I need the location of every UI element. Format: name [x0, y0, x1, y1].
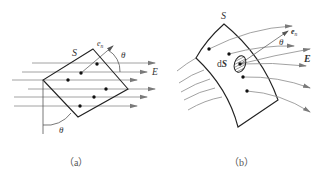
point-dot	[66, 78, 69, 81]
normal-label-b: en	[291, 27, 298, 37]
surface-label-a: S	[72, 47, 77, 58]
field-line	[240, 63, 306, 66]
element-label-ds: dS	[217, 59, 227, 69]
caption-a: （a）	[64, 157, 88, 168]
field-line	[188, 97, 222, 110]
normal-label-a: en	[97, 39, 104, 49]
caption-b: （b）	[229, 157, 254, 168]
figure-a: S en θ E θ （a）	[12, 39, 158, 168]
field-label-b: E	[303, 53, 311, 64]
field-line	[243, 77, 310, 88]
surface-label-b: S	[221, 10, 226, 21]
angle-label-top-a: θ	[121, 50, 126, 60]
point-dot	[207, 47, 210, 50]
field-line	[229, 46, 294, 54]
flux-diagram: S en θ E θ （a）	[0, 0, 327, 179]
angle-label-b: θ	[279, 37, 284, 47]
field-lines-a	[12, 63, 155, 106]
point-dot	[92, 95, 95, 98]
point-dot	[241, 75, 244, 78]
angle-arc-bottom	[43, 113, 71, 125]
field-label-a: E	[151, 67, 158, 77]
point-dot	[227, 52, 230, 55]
angle-label-bottom-a: θ	[59, 125, 64, 135]
point-dot	[104, 87, 107, 90]
point-dot	[238, 62, 241, 65]
plane-surface-s	[43, 49, 128, 117]
field-line	[177, 58, 196, 71]
normal-vector-en-b	[240, 31, 288, 64]
field-lines-b-outgoing	[209, 26, 310, 112]
field-lines-b-incoming	[177, 58, 222, 110]
curved-surface-s	[196, 24, 278, 127]
figure-b: S en θ E dS （b）	[177, 10, 311, 168]
field-line	[247, 91, 310, 112]
point-dot	[95, 62, 98, 65]
point-dot	[245, 89, 248, 92]
point-dot	[79, 71, 82, 74]
field-points-a	[66, 62, 107, 107]
point-dot	[78, 104, 81, 107]
field-line	[179, 70, 204, 83]
field-line	[184, 88, 215, 100]
